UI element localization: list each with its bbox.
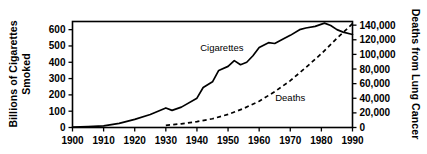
x-tick-label: 1920 (124, 135, 147, 146)
left-tick-label: 0 (60, 122, 66, 133)
x-tick-label: 1940 (186, 135, 209, 146)
right-tick-label: 60,000 (360, 78, 391, 89)
left-tick-label: 400 (49, 57, 66, 68)
right-tick-label: 40,000 (360, 93, 391, 104)
left-axis-tick-labels: 0100200300400500600 (49, 24, 66, 133)
cigarettes-and-lung-cancer-deaths-chart: 0100200300400500600 020,00040,00060,0008… (0, 0, 427, 154)
left-tick-label: 500 (49, 40, 66, 51)
left-tick-label: 300 (49, 73, 66, 84)
right-tick-label: 120,000 (360, 34, 397, 45)
x-tick-label: 1990 (341, 135, 364, 146)
y-axis-title-line2: Smoked (20, 53, 32, 94)
x-axis-tick-labels: 1900191019201930194019501960197019801990 (61, 135, 364, 146)
series-annotation-cigarettes: Cigarettes (200, 42, 244, 53)
right-tick-label: 100,000 (360, 49, 397, 60)
right-tick-label: 140,000 (360, 20, 397, 31)
right-tick-label: 0 (360, 122, 366, 133)
right-tick-label: 20,000 (360, 107, 391, 118)
x-tick-label: 1950 (217, 135, 240, 146)
x-tick-label: 1970 (279, 135, 302, 146)
x-tick-label: 1960 (248, 135, 271, 146)
y2-axis-title: Deaths from Lung Cancer (410, 9, 422, 140)
x-tick-label: 1910 (92, 135, 115, 146)
x-tick-label: 1900 (61, 135, 84, 146)
series-annotation-deaths: Deaths (275, 92, 305, 103)
left-tick-label: 100 (49, 106, 66, 117)
left-tick-label: 600 (49, 24, 66, 35)
x-tick-label: 1930 (155, 135, 178, 146)
plot-frame (73, 22, 353, 128)
y-axis-title-line1: Billions of Cigarettes (7, 20, 19, 127)
right-tick-label: 80,000 (360, 64, 391, 75)
chart-container: 0100200300400500600 020,00040,00060,0008… (0, 0, 427, 154)
left-tick-label: 200 (49, 89, 66, 100)
x-tick-label: 1980 (310, 135, 333, 146)
right-axis-tick-labels: 020,00040,00060,00080,000100,000120,0001… (360, 20, 397, 133)
